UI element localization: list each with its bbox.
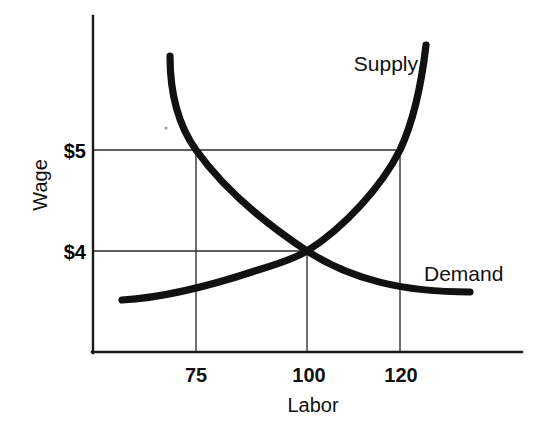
x-tick-label-75: 75 bbox=[185, 364, 207, 386]
x-tick-label-100: 100 bbox=[292, 364, 325, 386]
scan-speck bbox=[164, 126, 167, 129]
x-tick-label-120: 120 bbox=[384, 364, 417, 386]
supply-curve-label: Supply bbox=[354, 52, 419, 75]
demand-curve bbox=[170, 56, 470, 292]
demand-curve-label: Demand bbox=[424, 262, 503, 285]
chart-canvas: $5 $4 75 100 120 Labor Wage Supply Deman… bbox=[0, 0, 539, 438]
x-axis-title: Labor bbox=[287, 394, 338, 416]
y-tick-label-5: $5 bbox=[64, 140, 86, 162]
supply-demand-chart: $5 $4 75 100 120 Labor Wage Supply Deman… bbox=[0, 0, 539, 438]
guide-lines bbox=[93, 150, 400, 352]
supply-curve bbox=[122, 45, 426, 300]
y-tick-label-4: $4 bbox=[64, 241, 87, 263]
y-axis-title: Wage bbox=[29, 159, 51, 211]
